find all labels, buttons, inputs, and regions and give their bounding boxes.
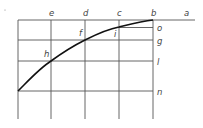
- label-c: c: [117, 8, 122, 18]
- label-e: e: [49, 8, 54, 18]
- label-n: n: [157, 87, 162, 97]
- label-h: h: [44, 49, 49, 59]
- label-i: i: [114, 29, 117, 39]
- label-o: o: [157, 23, 162, 33]
- label-g: g: [157, 36, 163, 46]
- diagram-canvas: e d c b a o g l n h f i: [0, 0, 203, 128]
- stray-mark: [4, 9, 5, 10]
- label-b: b: [151, 8, 156, 18]
- label-d: d: [83, 8, 89, 18]
- label-l: l: [157, 57, 160, 67]
- label-f: f: [79, 28, 84, 38]
- label-a: a: [184, 8, 189, 18]
- parabolic-curve: [18, 20, 153, 91]
